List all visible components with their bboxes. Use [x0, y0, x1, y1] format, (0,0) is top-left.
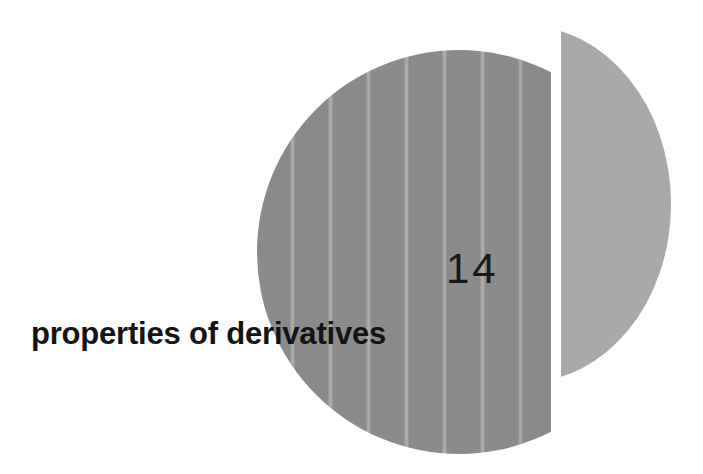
- chapter-opening-page: 14 properties of derivatives: [0, 0, 703, 474]
- striped-circle-graphic: [257, 50, 551, 454]
- light-circle-shape: [561, 26, 671, 382]
- light-circle-graphic: [561, 26, 671, 382]
- chapter-title: properties of derivatives: [31, 318, 386, 351]
- striped-circle-shape: [257, 50, 551, 454]
- chapter-number: 14: [446, 248, 499, 290]
